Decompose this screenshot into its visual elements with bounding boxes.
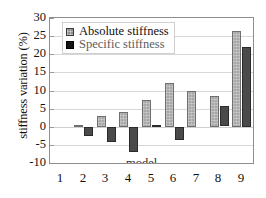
x-axis-tick-label-9: 9 xyxy=(230,170,252,186)
y-axis-tick-mark xyxy=(50,18,54,19)
gridline xyxy=(50,145,253,146)
bar-specific-model-6 xyxy=(175,127,184,140)
x-axis-tick-label-8: 8 xyxy=(207,170,229,186)
bar-absolute-model-2 xyxy=(74,125,83,127)
bar-absolute-model-4 xyxy=(119,112,128,127)
y-axis-tick-labels: 302520151050-5-10 xyxy=(16,0,46,198)
x-axis-tick-label-5: 5 xyxy=(140,170,162,186)
y-axis-tick-mark xyxy=(50,91,54,92)
bar-specific-model-3 xyxy=(107,127,116,142)
bar-absolute-model-7 xyxy=(187,91,196,127)
legend-swatch-absolute-stiffness xyxy=(66,28,74,36)
x-axis-tick-label-1: 1 xyxy=(49,170,71,186)
plot-area: model Absolute stiffness Specific stiffn… xyxy=(49,17,254,164)
bar-absolute-model-8 xyxy=(210,96,219,127)
bar-specific-model-9 xyxy=(242,47,251,127)
y-axis-tick-mark xyxy=(50,36,54,37)
y-axis-tick-mark xyxy=(50,54,54,55)
y-axis-tick-label: 15 xyxy=(16,65,46,77)
bar-specific-model-4 xyxy=(129,127,138,152)
y-axis-tick-label: -10 xyxy=(16,156,46,168)
x-axis-tick-label-6: 6 xyxy=(162,170,184,186)
y-axis-tick-mark xyxy=(50,72,54,73)
bar-absolute-model-3 xyxy=(97,116,106,127)
bar-specific-model-2 xyxy=(84,127,93,136)
y-axis-tick-mark xyxy=(50,145,54,146)
bar-absolute-model-5 xyxy=(142,100,151,127)
chart-figure: stiffness variation (%) 302520151050-5-1… xyxy=(0,0,266,198)
x-axis-tick-label-7: 7 xyxy=(185,170,207,186)
y-axis-tick-label: 0 xyxy=(16,120,46,132)
y-axis-tick-label: -5 xyxy=(16,138,46,150)
x-axis-tick-labels: 123456789 xyxy=(49,170,254,192)
legend-label-specific-stiffness: Specific stiffness xyxy=(79,38,165,51)
x-axis-inner-label: model xyxy=(126,156,157,164)
legend-swatch-specific-stiffness xyxy=(66,41,74,49)
x-axis-tick-label-2: 2 xyxy=(72,170,94,186)
y-axis-tick-mark xyxy=(50,127,54,128)
y-axis-tick-label: 25 xyxy=(16,29,46,41)
gridline xyxy=(50,127,253,128)
chart-legend: Absolute stiffness Specific stiffness xyxy=(62,22,175,54)
bar-specific-model-5 xyxy=(152,125,161,127)
gridline xyxy=(50,91,253,92)
x-axis-tick-label-4: 4 xyxy=(117,170,139,186)
gridline xyxy=(50,72,253,73)
legend-item-specific-stiffness: Specific stiffness xyxy=(66,38,169,51)
y-axis-tick-label: 30 xyxy=(16,11,46,23)
y-axis-tick-mark xyxy=(50,163,54,164)
gridline xyxy=(50,54,253,55)
y-axis-tick-mark xyxy=(50,109,54,110)
bar-absolute-model-6 xyxy=(165,83,174,127)
y-axis-tick-label: 5 xyxy=(16,102,46,114)
y-axis-tick-label: 20 xyxy=(16,47,46,59)
x-axis-tick-label-3: 3 xyxy=(94,170,116,186)
y-axis-tick-label: 10 xyxy=(16,84,46,96)
bar-specific-model-8 xyxy=(220,106,229,126)
bar-absolute-model-9 xyxy=(232,31,241,127)
